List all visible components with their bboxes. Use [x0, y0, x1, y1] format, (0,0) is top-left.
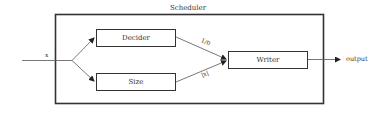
- decider-label: Decider: [97, 30, 175, 46]
- diagram-canvas: [0, 0, 387, 113]
- scheduler-label: Scheduler: [170, 4, 206, 12]
- output-label: output: [346, 55, 368, 63]
- input-label: x: [45, 51, 48, 58]
- edge-input-decider: [72, 38, 94, 61]
- edge-input-size: [72, 61, 94, 82]
- writer-label: Writer: [229, 52, 307, 68]
- size-label: Size: [97, 74, 175, 90]
